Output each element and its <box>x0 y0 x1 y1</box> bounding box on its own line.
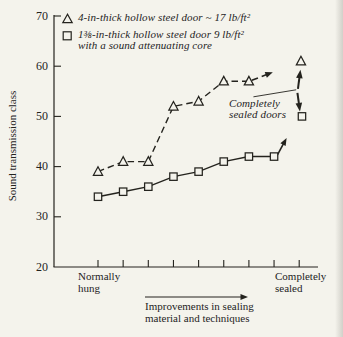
annotation-line: sealed doors <box>229 109 286 120</box>
svg-text:30: 30 <box>36 209 48 223</box>
door-stc-figure: 203040506070 4-in-thick hollow steel doo… <box>0 0 343 337</box>
svg-text:60: 60 <box>36 59 48 73</box>
x-axis-caption-line: Improvements in sealing <box>145 301 254 313</box>
legend-label-line: 4-in-thick hollow steel door ~ 17 lb/ft² <box>78 12 250 23</box>
annotation-completely-sealed-doors: Completely sealed doors <box>229 98 286 120</box>
triangle-marker-icon <box>61 13 74 24</box>
x-axis-label-line: hung <box>78 283 120 295</box>
square-marker-icon <box>61 30 74 41</box>
legend-item-4in-door: 4-in-thick hollow steel door ~ 17 lb/ft² <box>61 12 250 24</box>
x-axis-label-line: Normally <box>78 271 120 283</box>
x-axis-caption-line: material and techniques <box>145 313 254 325</box>
svg-text:40: 40 <box>36 159 48 173</box>
x-axis-caption: Improvements in sealing material and tec… <box>145 301 254 324</box>
x-axis-label-line: sealed <box>275 283 326 295</box>
chart-legend: 4-in-thick hollow steel door ~ 17 lb/ft²… <box>61 12 250 56</box>
legend-item-1-38in-door: 1⅜-in-thick hollow steel door 9 lb/ft² w… <box>61 29 250 51</box>
svg-text:70: 70 <box>36 9 48 23</box>
y-axis-title: Sound transmission class <box>6 76 20 216</box>
svg-text:20: 20 <box>36 260 48 274</box>
legend-label-line: with a sound attenuating core <box>78 40 244 51</box>
x-axis-label-completely-sealed: Completely sealed <box>275 271 326 294</box>
x-axis-label-normally-hung: Normally hung <box>78 271 120 294</box>
svg-text:50: 50 <box>36 109 48 123</box>
x-axis-label-line: Completely <box>275 271 326 283</box>
